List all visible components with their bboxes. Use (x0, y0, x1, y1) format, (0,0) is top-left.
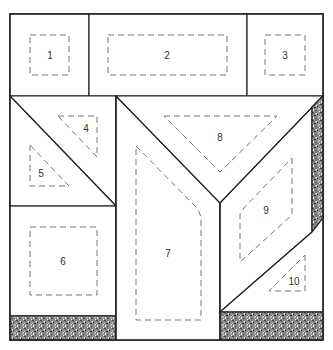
piece-6: 6 (10, 206, 116, 316)
piece-1: 1 (10, 14, 89, 96)
piece-label-10: 10 (288, 276, 300, 287)
piece-3: 3 (247, 14, 323, 96)
piece-label-9: 9 (263, 205, 269, 216)
piece-2: 2 (89, 14, 247, 96)
piece-label-6: 6 (60, 256, 66, 267)
piece-label-1: 1 (47, 50, 53, 61)
textured-band-bottom-right (220, 312, 323, 340)
piece-label-3: 3 (282, 50, 288, 61)
piece-label-4: 4 (83, 123, 89, 134)
piece-label-8: 8 (217, 132, 223, 143)
quilt-block-diagram: 1 2 3 4 5 6 7 8 (0, 0, 333, 350)
piece-label-7: 7 (165, 248, 171, 259)
piece-label-2: 2 (164, 50, 170, 61)
piece-label-5: 5 (38, 168, 44, 179)
textured-band-bottom-left (10, 316, 116, 340)
textured-strip-right (312, 96, 323, 232)
